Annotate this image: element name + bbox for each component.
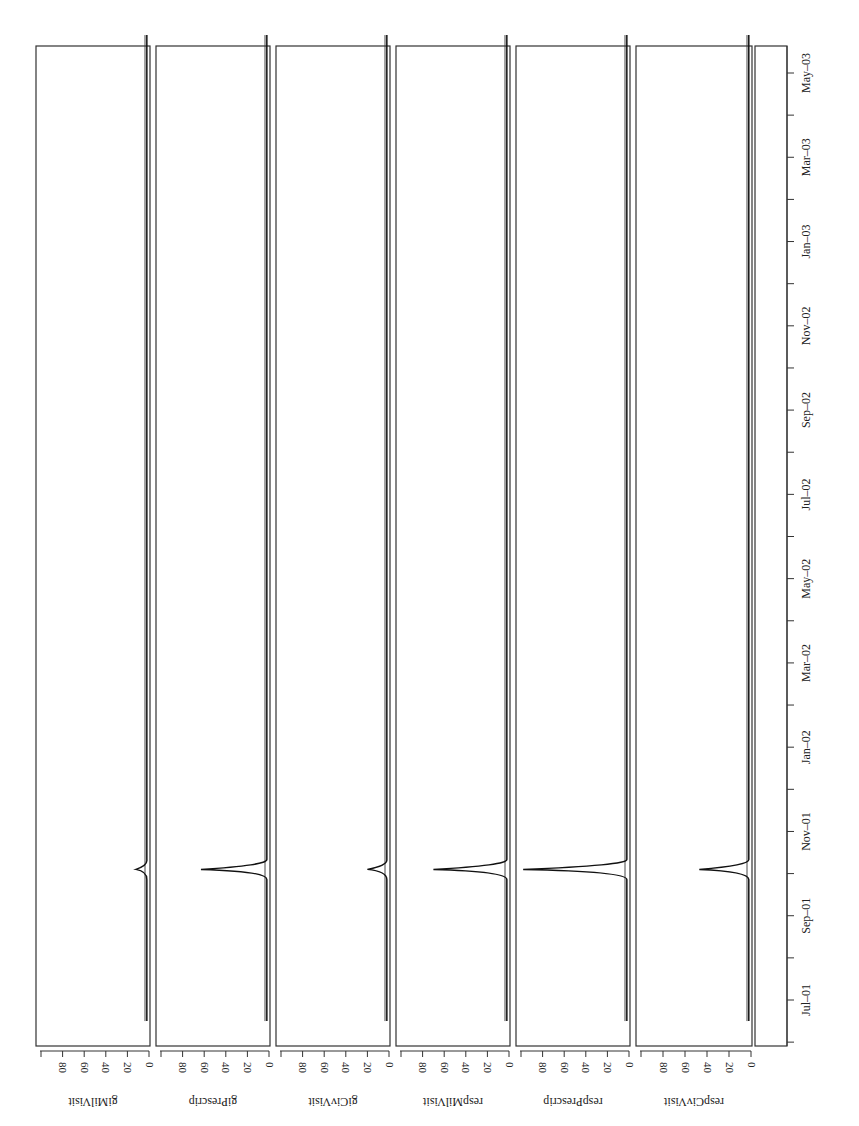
value-tick-label: 60 [319, 1062, 331, 1074]
value-tick-label: 40 [340, 1062, 352, 1074]
value-tick-label: 20 [602, 1062, 614, 1074]
time-axis: Jul–01Sep–01Nov–01Jan–02Mar–02May–02Jul–… [787, 46, 813, 1046]
value-tick-label: 0 [264, 1062, 276, 1068]
panel-frame [516, 46, 630, 1046]
value-tick-label: 40 [460, 1062, 472, 1074]
value-tick-label: 0 [504, 1062, 516, 1068]
panel-frame [36, 46, 150, 1046]
value-axis: 020406080 [640, 1051, 758, 1074]
value-tick-label: 0 [746, 1062, 758, 1068]
series-line [699, 35, 749, 1021]
value-tick-label: 80 [297, 1062, 309, 1074]
value-axis: 020406080 [520, 1051, 636, 1074]
value-tick-label: 20 [362, 1062, 374, 1074]
series-label: respPrescrip [543, 1095, 602, 1109]
series-label: giPrescrip [189, 1095, 238, 1109]
value-tick-label: 60 [79, 1062, 91, 1074]
value-tick-label: 80 [658, 1062, 670, 1074]
time-tick-label: May–02 [799, 559, 813, 599]
value-tick-label: 20 [724, 1062, 736, 1074]
panel-respMilVisit: 020406080respMilVisit [396, 35, 516, 1109]
strip-panel [755, 46, 787, 1046]
value-axis: 020406080 [40, 1051, 156, 1074]
value-tick-label: 0 [384, 1062, 396, 1068]
value-tick-label: 40 [100, 1062, 112, 1074]
panel-frame [396, 46, 510, 1046]
time-tick-label: Mar–02 [799, 644, 813, 682]
value-tick-label: 80 [537, 1062, 549, 1074]
value-axis: 020406080 [400, 1051, 516, 1074]
time-tick-label: Jul–01 [799, 984, 813, 1016]
series-label: respMilVisit [422, 1095, 483, 1109]
value-tick-label: 40 [702, 1062, 714, 1074]
value-tick-label: 80 [417, 1062, 429, 1074]
series-line [433, 35, 506, 1021]
panel-giMilVisit: 020406080giMilVisit [36, 35, 156, 1109]
value-tick-label: 60 [680, 1062, 692, 1074]
panel-respPrescrip: 020406080respPrescrip [516, 35, 636, 1109]
value-tick-label: 0 [624, 1062, 636, 1068]
value-tick-label: 60 [439, 1062, 451, 1074]
value-tick-label: 20 [482, 1062, 494, 1074]
value-tick-label: 60 [559, 1062, 571, 1074]
panel-respCivVisit: 020406080respCivVisit [636, 35, 758, 1109]
series-line [201, 35, 267, 1021]
series-label: giCivVisit [308, 1095, 358, 1109]
multi-panel-time-series-chart: 020406080giMilVisit020406080giPrescrip02… [0, 0, 859, 1126]
series-line [523, 35, 627, 1021]
value-axis: 020406080 [280, 1051, 396, 1074]
time-tick-label: Jul–02 [799, 478, 813, 510]
time-tick-label: Jan–03 [799, 225, 813, 259]
value-tick-label: 40 [580, 1062, 592, 1074]
value-axis: 020406080 [160, 1051, 276, 1074]
time-tick-label: Sep–02 [799, 392, 813, 428]
panel-giCivVisit: 020406080giCivVisit [276, 35, 396, 1109]
time-tick-label: Nov–01 [799, 812, 813, 851]
panel-frame [276, 46, 390, 1046]
time-tick-label: Mar–03 [799, 138, 813, 176]
time-tick-label: Sep–01 [799, 898, 813, 934]
value-tick-label: 0 [144, 1062, 156, 1068]
series-label: respCivVisit [663, 1095, 724, 1109]
panel-frame [636, 46, 752, 1046]
panel-giPrescrip: 020406080giPrescrip [156, 35, 276, 1109]
time-tick-label: Nov–02 [799, 306, 813, 345]
value-tick-label: 60 [199, 1062, 211, 1074]
value-tick-label: 80 [177, 1062, 189, 1074]
value-tick-label: 20 [242, 1062, 254, 1074]
time-tick-label: May–03 [799, 53, 813, 93]
panel-frame [156, 46, 270, 1046]
series-line [367, 35, 386, 1021]
value-tick-label: 20 [122, 1062, 134, 1074]
series-label: giMilVisit [68, 1095, 118, 1109]
time-tick-label: Jan–02 [799, 730, 813, 764]
value-tick-label: 40 [220, 1062, 232, 1074]
value-tick-label: 80 [57, 1062, 69, 1074]
